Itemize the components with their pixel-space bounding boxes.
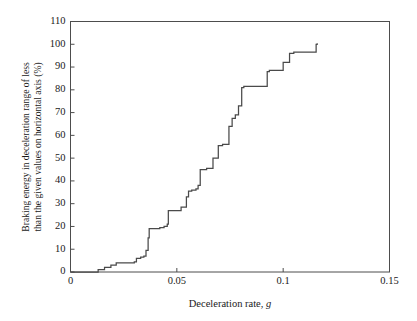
y-axis-title-line-1: Braking energy in deceleration range of … — [20, 62, 31, 232]
x-tick-label: 0 — [68, 275, 73, 286]
chart-figure: 0102030405060708090100110 00.050.10.15 D… — [0, 0, 417, 321]
y-tick-label: 0 — [60, 265, 65, 276]
x-tick-label: 0.05 — [168, 275, 186, 286]
x-tick-label: 0.15 — [380, 275, 398, 286]
y-tick-label: 40 — [55, 174, 66, 185]
x-axis-title: Deceleration rate, g — [189, 298, 272, 309]
y-tick-label: 30 — [55, 197, 66, 208]
y-tick-label: 100 — [50, 38, 66, 49]
y-tick-label: 110 — [50, 15, 65, 26]
braking-energy-step-chart: 0102030405060708090100110 00.050.10.15 D… — [0, 0, 417, 321]
y-tick-label: 10 — [55, 243, 66, 254]
y-tick-label: 50 — [55, 152, 66, 163]
y-axis-title-line-2: than the given values on horizontal axis… — [32, 62, 44, 231]
y-tick-label: 80 — [55, 83, 66, 94]
x-tick-label: 0.1 — [277, 275, 290, 286]
plot-frame — [71, 22, 390, 273]
y-tick-label: 20 — [55, 220, 66, 231]
y-tick-label: 60 — [55, 129, 66, 140]
x-axis-ticks: 00.050.10.15 — [68, 268, 399, 286]
y-tick-label: 90 — [55, 60, 66, 71]
data-series-line — [71, 43, 318, 272]
y-tick-label: 70 — [55, 106, 66, 117]
y-axis-title: Braking energy in deceleration range of … — [20, 62, 44, 232]
